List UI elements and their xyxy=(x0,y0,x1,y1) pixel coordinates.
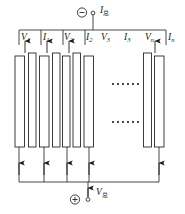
total-voltage-label: V总 xyxy=(96,188,108,198)
plate-group-right xyxy=(144,53,165,147)
plate-ellipsis-group xyxy=(112,83,139,123)
ellipsis-row-lower xyxy=(112,121,139,123)
plate-2 xyxy=(29,53,37,147)
label-i1: I1 xyxy=(43,33,49,43)
plate-5 xyxy=(63,56,71,147)
plate-4 xyxy=(53,53,61,147)
bottom-current-arrows xyxy=(19,163,159,175)
label-vn: Vn xyxy=(145,33,154,43)
plate-n-1 xyxy=(144,53,152,147)
label-v3: V3 xyxy=(101,33,110,43)
negative-terminal-node xyxy=(91,11,95,15)
label-v2: V2 xyxy=(64,33,73,43)
label-v1: V1 xyxy=(21,33,30,43)
ellipsis-row-upper xyxy=(112,83,139,85)
label-i2: I2 xyxy=(86,33,92,43)
label-in: In xyxy=(168,33,174,43)
top-label-dividers xyxy=(19,30,166,45)
plate-group-left xyxy=(15,53,94,147)
total-current-label: I总 xyxy=(100,6,109,16)
positive-terminal-node xyxy=(86,198,90,202)
plate-3 xyxy=(40,56,50,147)
top-bus-wiring xyxy=(19,14,166,30)
plate-n xyxy=(155,56,165,147)
positive-polarity-icon xyxy=(70,195,79,204)
plate-7 xyxy=(84,56,94,147)
plate-6 xyxy=(73,53,81,147)
plate-1 xyxy=(15,56,25,147)
label-i3: I3 xyxy=(124,33,130,43)
negative-polarity-icon xyxy=(77,8,86,17)
figure-canvas: I总 V1 I1 V2 I2 V3 I3 Vn In V总 xyxy=(0,0,185,214)
